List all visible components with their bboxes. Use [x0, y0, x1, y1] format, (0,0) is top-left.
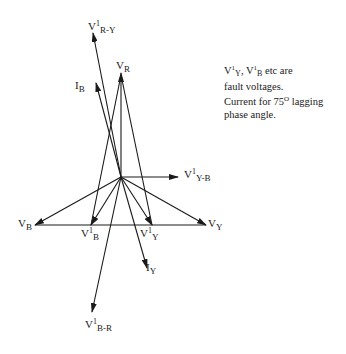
label-v1-b-r: V1B-R — [85, 318, 112, 333]
note-line-4: phase angle. — [224, 108, 323, 121]
label-v1-r-y: V1R-Y — [88, 20, 115, 35]
phasor-v1ry — [93, 33, 121, 177]
phasor-iy — [121, 177, 147, 268]
label-vr: VR — [116, 60, 130, 74]
phasor-ib — [96, 83, 121, 177]
label-ib: IB — [75, 80, 85, 94]
annotation-note: V1Y, V1B etc are fault voltages. Current… — [224, 62, 323, 121]
label-v1-y-b: V1Y-B — [184, 168, 210, 183]
label-vy: VY — [208, 218, 222, 232]
label-v1-y: V1Y — [140, 227, 158, 242]
phasor-vb — [35, 177, 121, 225]
note-line-1: V1Y, V1B etc are — [224, 62, 323, 80]
note-line-2: fault voltages. — [224, 80, 323, 93]
label-vb: VB — [18, 218, 32, 232]
v1y-to-vr-line — [121, 75, 152, 225]
note-line-3: Current for 75O lagging — [224, 93, 323, 108]
phasor-diagram — [0, 0, 346, 354]
phasor-vy — [121, 177, 206, 225]
label-v1-b: V1B — [81, 227, 99, 242]
label-iy: IY — [146, 262, 156, 276]
